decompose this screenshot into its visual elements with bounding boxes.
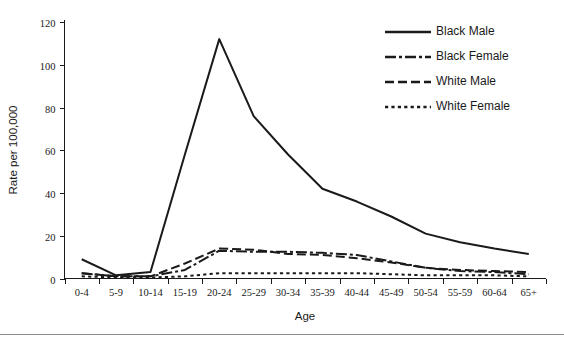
y-axis-title: Rate per 100,000 [7, 106, 19, 195]
x-tick-label: 60-64 [482, 287, 507, 298]
y-tick-label: 120 [40, 18, 56, 29]
x-tick-label: 35-39 [310, 287, 335, 298]
y-tick-label: 60 [45, 146, 56, 157]
x-tick-label: 40-44 [345, 287, 370, 298]
x-tick-label: 10-14 [138, 287, 163, 298]
y-tick-label: 40 [45, 189, 56, 200]
chart-legend: Black MaleBlack FemaleWhite MaleWhite Fe… [385, 24, 510, 113]
x-tick-label: 45-49 [379, 287, 404, 298]
x-tick-label: 0-4 [75, 287, 90, 298]
x-tick-label: 15-19 [173, 287, 198, 298]
y-tick-label: 0 [50, 275, 55, 286]
legend-label-white-female: White Female [436, 99, 510, 113]
chart-container: 020406080100120 0-45-910-1415-1920-2425-… [0, 0, 564, 342]
legend-label-black-male: Black Male [436, 24, 495, 38]
x-tick-label: 20-24 [207, 287, 232, 298]
y-axis-ticks [60, 23, 65, 280]
x-axis-tick-labels: 0-45-910-1415-1920-2425-2930-3435-3940-4… [75, 287, 537, 298]
series-line-white-female [82, 273, 529, 277]
y-tick-label: 80 [45, 104, 56, 115]
y-axis-tick-labels: 020406080100120 [40, 18, 56, 286]
y-tick-label: 20 [45, 232, 56, 243]
x-tick-label: 65+ [521, 287, 538, 298]
x-tick-label: 50-54 [413, 287, 438, 298]
line-chart: 020406080100120 0-45-910-1415-1920-2425-… [0, 0, 564, 342]
legend-label-black-female: Black Female [436, 49, 509, 63]
x-tick-label: 5-9 [109, 287, 123, 298]
x-axis-title: Age [295, 310, 315, 322]
x-tick-label: 30-34 [276, 287, 301, 298]
y-tick-label: 100 [40, 61, 56, 72]
legend-label-white-male: White Male [436, 74, 496, 88]
x-tick-label: 25-29 [241, 287, 266, 298]
x-tick-label: 55-59 [448, 287, 473, 298]
x-axis-ticks [66, 279, 547, 284]
